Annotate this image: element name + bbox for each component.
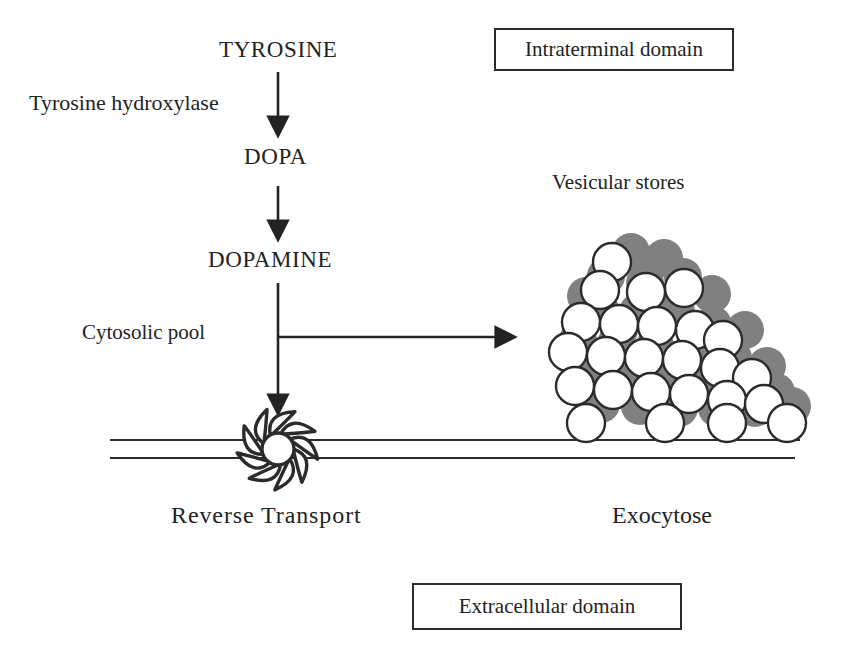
label-dopamine: DOPAMINE (208, 248, 332, 271)
vesicle (714, 339, 752, 377)
transporter-blade (293, 449, 307, 482)
intraterminal-domain-label: Intraterminal domain (525, 39, 703, 60)
vesicle (549, 333, 587, 371)
vesicle (708, 381, 746, 419)
vesicle (660, 389, 698, 427)
vesicle (625, 339, 663, 377)
vesicle (559, 321, 597, 359)
vesicle (657, 293, 695, 331)
vesicle (593, 243, 631, 281)
vesicle (768, 404, 806, 442)
plasma-membrane (110, 440, 800, 458)
vesicle (587, 257, 625, 295)
intraterminal-domain-box: Intraterminal domain (494, 28, 734, 71)
vesicle (581, 271, 619, 309)
vesicle (556, 367, 594, 405)
vesicle (612, 233, 650, 271)
extracellular-domain-box: Extracellular domain (412, 583, 682, 630)
vesicle (745, 385, 783, 423)
vesicle (698, 389, 736, 427)
vesicle (562, 303, 600, 341)
vesicle (587, 337, 625, 375)
vesicle (581, 291, 619, 329)
vesicle (627, 273, 665, 311)
vesicle (757, 373, 795, 411)
vesicle (676, 311, 714, 349)
vesicle (582, 385, 620, 423)
vesicle (621, 387, 659, 425)
vesicle (694, 306, 732, 344)
vesicle (567, 355, 605, 393)
vesicle (626, 264, 664, 302)
vesicle (748, 347, 786, 385)
label-vesicular-stores: Vesicular stores (552, 172, 684, 193)
vesicle (693, 275, 731, 313)
vesicle (632, 373, 670, 411)
vesicle (670, 375, 708, 413)
vesicle (594, 371, 632, 409)
vesicle (643, 361, 681, 399)
vesicle (638, 307, 676, 345)
transporter-blade (255, 410, 267, 444)
vesicle (704, 321, 742, 359)
label-tyrosine-hydroxylase: Tyrosine hydroxylase (29, 92, 219, 114)
vesicle (605, 359, 643, 397)
extracellular-domain-label: Extracellular domain (459, 596, 636, 617)
diagram-canvas: TYROSINE Tyrosine hydroxylase DOPA DOPAM… (0, 0, 841, 658)
vesicle (736, 389, 774, 427)
vesicle (600, 305, 638, 343)
vesicle (701, 349, 739, 387)
label-exocytose: Exocytose (612, 503, 712, 527)
vesicle (597, 325, 635, 363)
vesicle (733, 359, 771, 397)
transporter-blade (270, 412, 295, 436)
vesicle (600, 311, 638, 349)
vesicle (663, 341, 701, 379)
vesicle (681, 363, 719, 401)
transporter-blade (289, 437, 317, 459)
vesicle (619, 293, 657, 331)
vesicle (567, 277, 605, 315)
vesicle (646, 404, 684, 442)
label-tyrosine: TYROSINE (219, 38, 338, 61)
vesicle (773, 387, 811, 425)
vesicle (675, 329, 713, 367)
transporter-hub (262, 433, 294, 465)
transporter-blade (237, 453, 270, 468)
label-cytosolic-pool: Cytosolic pool (82, 322, 205, 343)
vesicle (726, 311, 764, 349)
vesicle (720, 371, 758, 409)
vesicle (664, 258, 702, 296)
vesicle-group (549, 243, 806, 442)
transporter-blade (249, 464, 280, 481)
label-reverse-transport: Reverse Transport (171, 503, 362, 527)
transporter-blade (281, 423, 315, 434)
reverse-transporter-icon (237, 410, 318, 490)
label-dopa: DOPA (244, 145, 307, 168)
vesicle (708, 404, 746, 442)
vesicle-shadow-group (559, 233, 811, 427)
transporter-blade (244, 426, 264, 454)
transporter-blade (275, 459, 294, 490)
vesicle (645, 239, 683, 277)
vesicle (665, 269, 703, 307)
vesicle (567, 404, 605, 442)
vesicle (636, 327, 674, 365)
